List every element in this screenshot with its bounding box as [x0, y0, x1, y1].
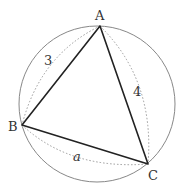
triangle-abc [22, 26, 148, 164]
circumcircle [19, 26, 175, 182]
vertex-label-b: B [8, 119, 18, 134]
diagram-svg: A B C 3 4 a [0, 0, 180, 191]
side-label-ab: 3 [44, 53, 52, 68]
triangle-inscribed-diagram: A B C 3 4 a [0, 0, 180, 191]
vertex-label-c: C [148, 168, 158, 183]
side-label-ac: 4 [133, 84, 141, 99]
vertex-label-a: A [94, 8, 105, 23]
side-label-bc: a [73, 149, 81, 164]
